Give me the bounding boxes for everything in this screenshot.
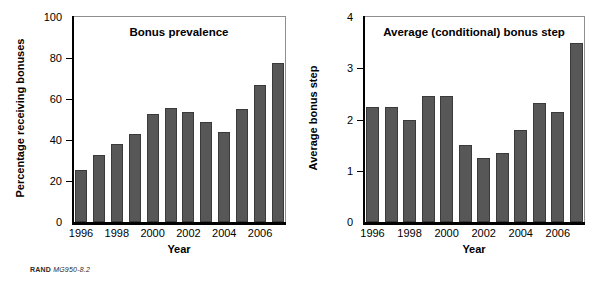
x-axis-tick-label: 2002 [471, 227, 495, 239]
x-axis-tick-label: 2002 [176, 227, 200, 239]
bar [93, 155, 105, 222]
y-axis-tick [357, 68, 363, 69]
bar [182, 112, 194, 222]
bar-series [74, 17, 285, 222]
bar [218, 132, 230, 222]
chart-panel-bonus-prevalence: Bonus prevalence Percentage receiving bo… [0, 0, 300, 258]
y-axis-tick-label: 20 [36, 175, 62, 187]
y-axis-tick [66, 99, 72, 100]
x-axis-tick-label: 2004 [509, 227, 533, 239]
bar [236, 109, 248, 222]
bar [254, 85, 266, 222]
bar [385, 107, 398, 222]
y-axis-tick-label: 3 [333, 62, 353, 74]
x-axis-tick-label: 2006 [248, 227, 272, 239]
y-axis-tick [357, 120, 363, 121]
x-axis-title: Year [72, 243, 286, 255]
y-axis-tick [66, 181, 72, 182]
chart-panels: Bonus prevalence Percentage receiving bo… [0, 0, 601, 258]
x-axis-tick-label: 1998 [397, 227, 421, 239]
footer-id: MG950-8.2 [53, 266, 90, 273]
bar [366, 107, 379, 222]
bar [111, 144, 123, 222]
bar [147, 114, 159, 222]
bar [496, 153, 509, 222]
y-axis-tick-label: 60 [36, 93, 62, 105]
bar [272, 63, 284, 222]
bar [75, 170, 87, 222]
y-axis-title: Percentage receiving bonuses [14, 15, 26, 221]
bar [422, 96, 435, 222]
bar [440, 96, 453, 222]
footer-brand: RAND [30, 266, 51, 273]
x-axis-tick-label: 1996 [360, 227, 384, 239]
y-axis-tick-label: 1 [333, 165, 353, 177]
figure: Bonus prevalence Percentage receiving bo… [0, 0, 601, 293]
y-axis-tick-label: 40 [36, 134, 62, 146]
x-axis-baseline [363, 222, 585, 225]
figure-footer: RAND MG950-8.2 [30, 266, 90, 273]
x-axis-tick-label: 2000 [434, 227, 458, 239]
y-axis-title: Average bonus step [307, 15, 319, 221]
x-axis-baseline [72, 222, 286, 225]
y-axis-tick [66, 58, 72, 59]
bar-series [365, 17, 584, 222]
bar [477, 158, 490, 222]
bar [459, 145, 472, 222]
y-axis-tick-label: 0 [333, 216, 353, 228]
bar [570, 43, 583, 222]
x-axis-tick-label: 1998 [105, 227, 129, 239]
x-axis-title: Year [363, 243, 585, 255]
bar [551, 112, 564, 222]
chart-panel-average-bonus-step: Average (conditional) bonus step Average… [300, 0, 601, 258]
x-axis-tick-label: 2000 [140, 227, 164, 239]
y-axis-tick-label: 2 [333, 114, 353, 126]
y-axis-tick-label: 80 [36, 52, 62, 64]
y-axis-tick-label: 4 [333, 11, 353, 23]
x-axis-tick-label: 2004 [212, 227, 236, 239]
y-axis-tick-label: 0 [36, 216, 62, 228]
bar [514, 130, 527, 222]
bar [129, 134, 141, 222]
x-axis-tick-label: 2006 [546, 227, 570, 239]
y-axis-tick [66, 140, 72, 141]
bar [165, 108, 177, 222]
bar [533, 103, 546, 222]
x-axis-tick-label: 1996 [69, 227, 93, 239]
y-axis-tick [357, 171, 363, 172]
y-axis-tick-label: 100 [36, 11, 62, 23]
bar [403, 120, 416, 223]
bar [200, 122, 212, 222]
